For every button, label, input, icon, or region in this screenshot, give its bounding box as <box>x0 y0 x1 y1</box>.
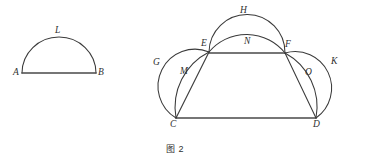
label-C: C <box>170 120 176 130</box>
arc-G <box>158 49 209 118</box>
left-figure-group <box>22 37 96 73</box>
label-A: A <box>13 68 19 78</box>
label-D: D <box>313 120 320 130</box>
label-B: B <box>98 68 104 78</box>
label-H: H <box>240 6 247 16</box>
label-N: N <box>244 37 250 47</box>
arc-L <box>22 37 96 73</box>
figure-canvas: A B L C D E F G H K M N O 图 2 <box>0 0 365 164</box>
label-O: O <box>305 68 312 78</box>
label-M: M <box>180 67 188 77</box>
label-E: E <box>201 39 207 49</box>
label-K: K <box>331 57 337 67</box>
arc-H <box>209 14 285 53</box>
label-G: G <box>153 58 160 68</box>
label-F: F <box>285 40 291 50</box>
figure-caption: 图 2 <box>166 142 184 155</box>
label-L: L <box>55 26 60 36</box>
segment-CE <box>176 52 209 118</box>
arc-K <box>285 52 332 118</box>
segment-FD <box>285 53 316 118</box>
